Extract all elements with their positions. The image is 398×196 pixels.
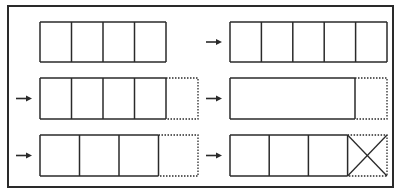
arrowhead-icon — [216, 153, 222, 159]
outer-frame — [8, 6, 393, 187]
extension-slot-dotted — [166, 78, 198, 119]
array-diagram — [0, 0, 398, 196]
arrowhead-icon — [26, 96, 32, 102]
extension-slot-dotted — [355, 78, 387, 119]
arrowhead-icon — [26, 153, 32, 159]
arrowhead-icon — [216, 39, 222, 45]
arrowhead-icon — [216, 96, 222, 102]
extension-slot-dotted — [159, 135, 199, 176]
